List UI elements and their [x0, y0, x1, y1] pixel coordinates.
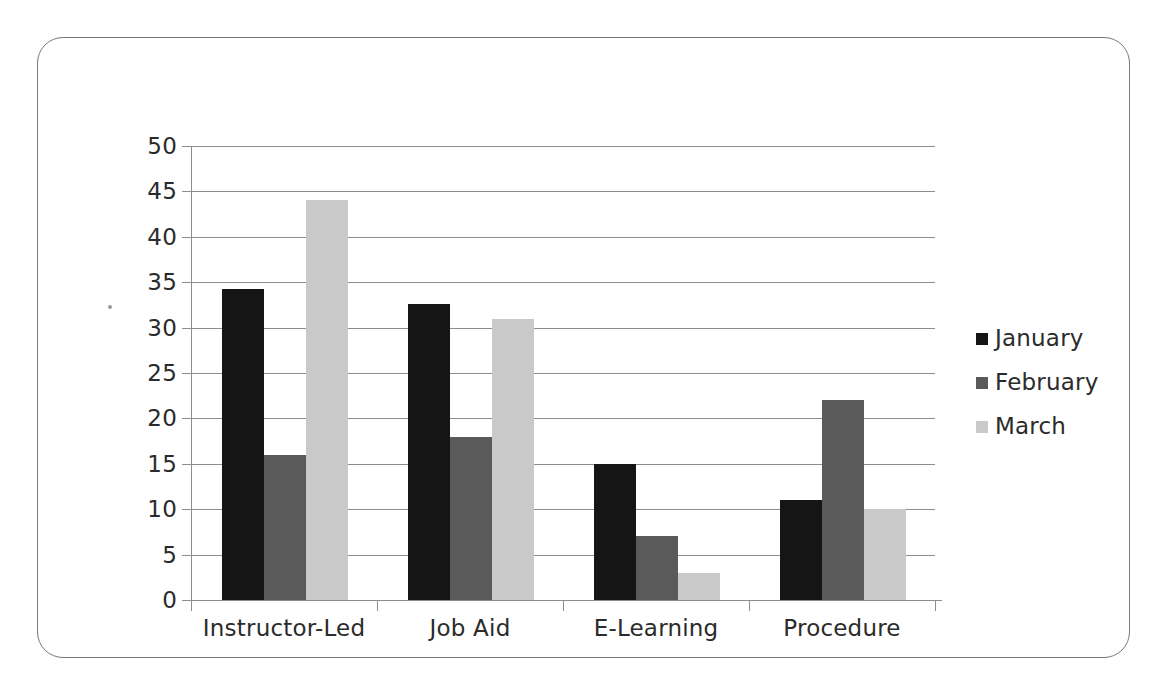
gridline-35 [191, 282, 935, 283]
y-axis-label-15: 15 [133, 453, 177, 476]
bar-march-job-aid[interactable] [492, 319, 534, 600]
legend-entry-march[interactable]: March [976, 415, 1066, 438]
bar-february-e-learning[interactable] [636, 536, 678, 600]
y-tick-mark-5 [182, 555, 191, 556]
x-tick-mark-4 [935, 600, 936, 611]
gridline-50 [191, 146, 935, 147]
gridline-25 [191, 373, 935, 374]
y-axis-label-5: 5 [133, 544, 177, 567]
x-tick-mark-0 [191, 600, 192, 611]
y-tick-mark-15 [182, 464, 191, 465]
legend-entry-february[interactable]: February [976, 371, 1099, 394]
y-axis-label-40: 40 [133, 226, 177, 249]
y-tick-mark-50 [182, 146, 191, 147]
bar-january-job-aid[interactable] [408, 304, 450, 600]
y-tick-mark-45 [182, 191, 191, 192]
y-tick-mark-40 [182, 237, 191, 238]
gridline-45 [191, 191, 935, 192]
bar-january-instructor-led[interactable] [222, 289, 264, 600]
y-axis-label-35: 35 [133, 271, 177, 294]
bar-march-instructor-led[interactable] [306, 200, 348, 600]
bar-february-instructor-led[interactable] [264, 455, 306, 600]
gridline-30 [191, 328, 935, 329]
legend-swatch-march-icon [976, 421, 988, 433]
bar-february-job-aid[interactable] [450, 437, 492, 600]
y-axis-label-50: 50 [133, 135, 177, 158]
x-axis-label-procedure: Procedure [749, 615, 935, 641]
legend-label-february: February [995, 371, 1099, 394]
y-axis-label-10: 10 [133, 498, 177, 521]
y-axis-label-20: 20 [133, 407, 177, 430]
x-axis-label-e-learning: E-Learning [563, 615, 749, 641]
bar-march-e-learning[interactable] [678, 573, 720, 600]
y-tick-mark-20 [182, 418, 191, 419]
y-axis-label-45: 45 [133, 180, 177, 203]
x-tick-mark-3 [749, 600, 750, 611]
legend-entry-january[interactable]: January [976, 327, 1084, 350]
x-tick-mark-1 [377, 600, 378, 611]
gridline-40 [191, 237, 935, 238]
legend-swatch-january-icon [976, 333, 988, 345]
legend-label-january: January [995, 327, 1084, 350]
bar-january-e-learning[interactable] [594, 464, 636, 600]
y-axis-label-25: 25 [133, 362, 177, 385]
bar-march-procedure[interactable] [864, 509, 906, 600]
x-axis-label-instructor-led: Instructor-Led [191, 615, 377, 641]
y-axis-tick-labels: 05101520253035404550 [133, 146, 177, 600]
scan-artifact-speck [108, 305, 112, 309]
chart-frame: 05101520253035404550 Instructor-LedJob A… [37, 37, 1130, 658]
legend-swatch-february-icon [976, 377, 988, 389]
y-tick-mark-35 [182, 282, 191, 283]
y-axis-label-30: 30 [133, 317, 177, 340]
plot-area [191, 146, 935, 600]
bar-february-procedure[interactable] [822, 400, 864, 600]
y-axis-label-0: 0 [133, 589, 177, 612]
x-tick-mark-2 [563, 600, 564, 611]
y-tick-mark-10 [182, 509, 191, 510]
legend-label-march: March [995, 415, 1066, 438]
y-tick-mark-25 [182, 373, 191, 374]
bar-january-procedure[interactable] [780, 500, 822, 600]
y-tick-mark-30 [182, 328, 191, 329]
x-axis-label-job-aid: Job Aid [377, 615, 563, 641]
